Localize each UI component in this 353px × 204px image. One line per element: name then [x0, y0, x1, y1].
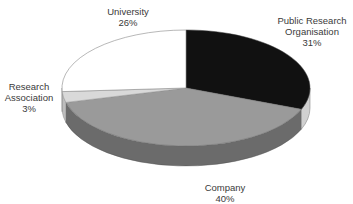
- label-company: Company 40%: [195, 182, 255, 204]
- label-research-line2: Association: [0, 92, 58, 103]
- label-university-name: University: [92, 6, 164, 17]
- label-research-line1: Research: [0, 81, 58, 92]
- slice-university[interactable]: [62, 30, 186, 92]
- label-research-association: Research Association 3%: [0, 81, 58, 114]
- label-research-value: 3%: [0, 103, 58, 114]
- label-public-value: 31%: [270, 37, 353, 48]
- label-university-value: 26%: [92, 17, 164, 28]
- label-public-line2: Organisation: [270, 26, 353, 37]
- label-company-name: Company: [195, 182, 255, 193]
- label-public-line1: Public Research: [270, 15, 353, 26]
- label-company-value: 40%: [195, 193, 255, 204]
- label-public-research-organisation: Public Research Organisation 31%: [270, 15, 353, 48]
- label-university: University 26%: [92, 6, 164, 28]
